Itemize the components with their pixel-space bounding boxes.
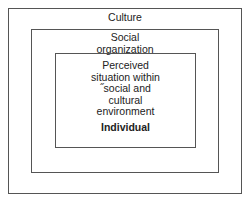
description-line-3: ˝social and xyxy=(56,83,195,95)
culture-label: Culture xyxy=(9,12,241,24)
social-organization-box: Social organization Perceived situation … xyxy=(31,29,219,173)
description-line-1: Perceived xyxy=(56,60,195,72)
social-organization-label: Social organization xyxy=(32,32,218,55)
social-organization-line-1: Social xyxy=(32,32,218,44)
individual-description: Perceived situation within ˝social and c… xyxy=(56,60,195,133)
individual-box: Perceived situation within ˝social and c… xyxy=(55,53,196,148)
culture-box: Culture Social organization Perceived si… xyxy=(8,8,242,194)
individual-title: Individual xyxy=(56,122,195,134)
description-line-5: environment xyxy=(56,106,195,118)
